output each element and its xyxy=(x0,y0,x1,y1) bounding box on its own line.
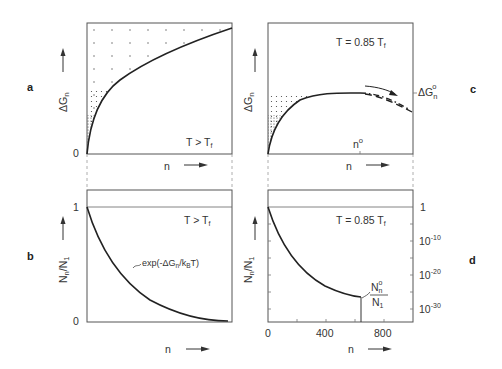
x-arrow-icon xyxy=(366,163,390,168)
stipple-region xyxy=(87,23,232,154)
critical-size-label: no xyxy=(353,136,363,150)
plot-frame xyxy=(268,190,413,322)
svg-text:ΔGn: ΔGn xyxy=(57,92,71,112)
svg-text:ΔGn: ΔGn xyxy=(242,92,256,112)
ytick-0: 0 xyxy=(73,315,79,327)
svg-text:Nno: Nno xyxy=(371,279,383,294)
figure-canvas: a ΔGn 0 T > Tf n xyxy=(0,0,502,369)
annotation-leader xyxy=(362,292,370,298)
panel-letter: a xyxy=(27,81,34,93)
condition-label: T > Tf xyxy=(186,136,212,149)
ytick-label: 1 xyxy=(420,201,426,213)
xtick-label: 0 xyxy=(265,327,271,339)
condition-label: T = 0.85 Tf xyxy=(336,36,386,49)
origin-label: 0 xyxy=(73,147,79,159)
axis-ticks xyxy=(268,224,413,322)
panel-letter: d xyxy=(469,254,476,266)
y-arrow-icon xyxy=(61,216,66,240)
xtick-label: 800 xyxy=(374,327,392,339)
ytick-label: 10-30 xyxy=(419,302,441,315)
dashed-continuation xyxy=(365,94,412,112)
max-delta-g-label: ΔGno xyxy=(418,82,437,101)
y-ticks-right: 1 10-10 10-20 10-30 xyxy=(419,201,441,315)
ytick-label: 10-10 xyxy=(419,234,441,247)
y-axis-label: Nn/N1 xyxy=(242,257,256,283)
x-axis-label: n xyxy=(346,160,352,172)
x-axis-label: n xyxy=(165,343,171,355)
svg-text:Nn/N1: Nn/N1 xyxy=(57,257,71,283)
boltzmann-annotation: exp(-ΔGn/kBT) xyxy=(142,258,199,269)
svg-text:Nn/N1: Nn/N1 xyxy=(242,257,256,283)
panel-letter: b xyxy=(27,250,34,262)
y-arrow-icon xyxy=(253,48,258,72)
dash-dot-continuation xyxy=(360,93,410,110)
critical-ratio-label: Nno N1 xyxy=(370,279,388,309)
axis-ticks xyxy=(360,93,417,154)
condition-label: T > Tf xyxy=(184,214,210,227)
panel-a: a ΔGn 0 T > Tf n xyxy=(27,23,232,172)
y-arrow-icon xyxy=(253,216,258,240)
y-axis-label: ΔGn xyxy=(242,92,256,112)
panel-b: exp(-ΔGn/kBT) T > Tf 1 0 b Nn/N1 n xyxy=(27,190,232,355)
x-arrow-icon xyxy=(186,347,210,352)
x-axis-label: n xyxy=(348,343,354,355)
x-ticks: 0 400 800 xyxy=(265,327,392,339)
y-arrow-icon xyxy=(61,48,66,72)
panel-letter: c xyxy=(470,83,476,95)
x-arrow-icon xyxy=(368,347,392,352)
y-axis-label: Nn/N1 xyxy=(57,257,71,283)
ytick-label: 10-20 xyxy=(419,268,441,281)
svg-text:N1: N1 xyxy=(372,296,384,309)
annotation-leader xyxy=(133,264,141,268)
ytick-1: 1 xyxy=(73,201,79,213)
x-arrow-icon xyxy=(184,163,208,168)
x-axis-label: n xyxy=(164,160,170,172)
panel-c: ΔGno no T = 0.85 Tf c ΔGn n xyxy=(242,23,476,172)
stipple-region xyxy=(268,93,360,154)
condition-label: T = 0.85 Tf xyxy=(336,214,386,227)
y-axis-label: ΔGn xyxy=(57,92,71,112)
xtick-label: 400 xyxy=(316,327,334,339)
panel-d: Nno N1 T = 0.85 Tf 1 10-10 10-20 10-30 0… xyxy=(242,190,476,355)
